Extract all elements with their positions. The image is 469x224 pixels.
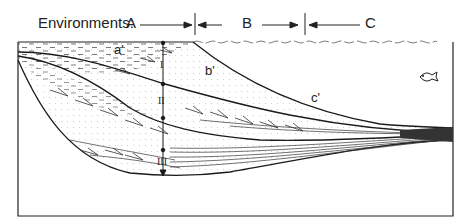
unit-ii-label: II — [158, 95, 165, 106]
unit-i-label: I — [160, 59, 163, 70]
facies-cross-section: I II III a' b' c' — [0, 0, 469, 224]
facies-c-label: c' — [311, 90, 320, 105]
facies-a-label: a' — [114, 42, 124, 57]
unit-iii-label: III — [157, 156, 167, 167]
facies-b-label: b' — [205, 63, 215, 78]
fish-icon — [420, 72, 438, 81]
environment-boundary-arrows — [140, 13, 360, 35]
water-surface-line — [193, 41, 437, 43]
